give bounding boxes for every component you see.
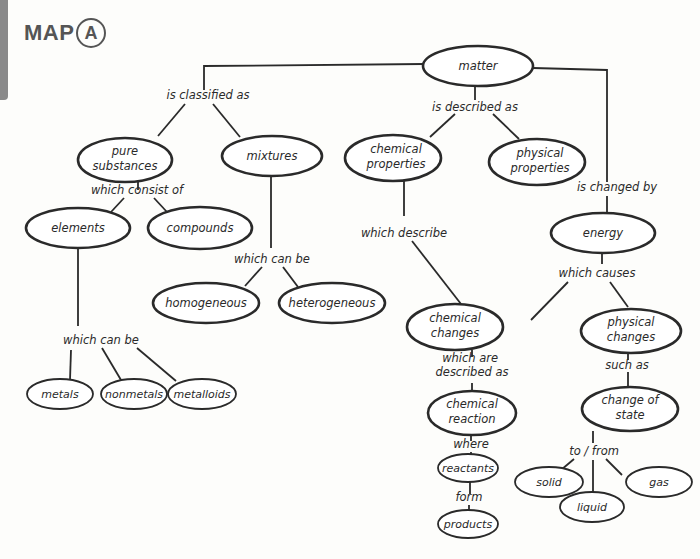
svg-text:substances: substances: [93, 159, 158, 173]
svg-text:reaction: reaction: [448, 412, 495, 426]
link-such-as: such as: [605, 358, 649, 372]
node-products: products: [438, 510, 498, 538]
svg-text:metals: metals: [41, 388, 79, 401]
node-chemical-changes: chemical changes: [407, 304, 503, 350]
link-to-from: to / from: [569, 444, 619, 458]
link-which-causes: which causes: [559, 266, 636, 280]
node-heterogeneous: heterogeneous: [279, 283, 385, 323]
concept-map: is classified as is described as is chan…: [0, 0, 700, 559]
svg-text:changes: changes: [607, 330, 655, 344]
svg-text:pure: pure: [111, 144, 138, 158]
svg-text:physical: physical: [515, 146, 564, 160]
node-metalloids: metalloids: [168, 379, 236, 409]
node-compounds: compounds: [148, 207, 252, 249]
node-gas: gas: [626, 467, 692, 497]
svg-text:liquid: liquid: [577, 501, 608, 514]
svg-text:gas: gas: [649, 476, 669, 489]
node-chemical-properties: chemical properties: [345, 135, 441, 181]
svg-text:properties: properties: [510, 161, 570, 175]
node-mixtures: mixtures: [222, 136, 322, 176]
svg-text:change of: change of: [601, 393, 660, 407]
link-which-are-described-as: which are described as: [436, 351, 509, 379]
node-matter: matter: [423, 46, 533, 86]
svg-text:state: state: [615, 408, 644, 422]
svg-text:changes: changes: [431, 326, 479, 340]
link-form: form: [455, 490, 482, 504]
svg-text:energy: energy: [583, 226, 623, 240]
node-metals: metals: [27, 379, 93, 409]
svg-text:chemical: chemical: [429, 311, 481, 325]
svg-text:mixtures: mixtures: [247, 149, 298, 163]
link-is-changed-by: is changed by: [577, 180, 657, 194]
node-chemical-reaction: chemical reaction: [428, 391, 516, 435]
svg-text:metalloids: metalloids: [173, 388, 230, 401]
node-elements: elements: [26, 208, 130, 248]
svg-text:compounds: compounds: [167, 221, 234, 235]
node-homogeneous: homogeneous: [153, 283, 259, 323]
svg-text:matter: matter: [458, 59, 498, 73]
node-liquid: liquid: [560, 492, 624, 522]
svg-text:homogeneous: homogeneous: [165, 296, 247, 310]
svg-text:chemical: chemical: [446, 397, 498, 411]
svg-text:nonmetals: nonmetals: [105, 388, 163, 401]
node-pure-substances: pure substances: [78, 138, 172, 182]
link-which-describe: which describe: [361, 226, 447, 240]
svg-text:heterogeneous: heterogeneous: [289, 296, 376, 310]
svg-text:chemical: chemical: [370, 142, 422, 156]
node-nonmetals: nonmetals: [101, 379, 167, 409]
link-is-described-as: is described as: [432, 100, 518, 114]
node-energy: energy: [551, 213, 655, 253]
node-reactants: reactants: [438, 454, 498, 482]
link-is-classified-as: is classified as: [166, 88, 249, 102]
node-change-of-state: change of state: [582, 387, 678, 431]
link-which-consist-of: which consist of: [91, 183, 185, 197]
link-which-can-be-mixtures: which can be: [234, 252, 310, 266]
link-where: where: [453, 437, 489, 451]
link-which-can-be-elements: which can be: [63, 333, 139, 347]
svg-text:properties: properties: [366, 157, 426, 171]
svg-text:products: products: [443, 518, 493, 531]
svg-text:solid: solid: [536, 476, 563, 489]
node-physical-changes: physical changes: [581, 309, 681, 353]
svg-text:physical: physical: [606, 315, 655, 329]
node-solid: solid: [515, 467, 583, 497]
node-physical-properties: physical properties: [489, 139, 585, 185]
svg-text:reactants: reactants: [442, 462, 494, 475]
svg-text:elements: elements: [51, 221, 104, 235]
